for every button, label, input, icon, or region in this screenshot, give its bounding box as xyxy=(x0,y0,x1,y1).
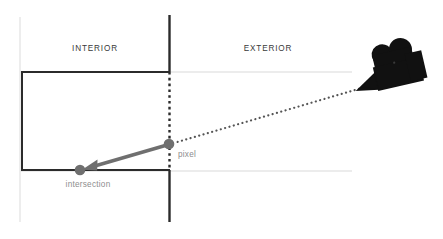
ray-intersection-diagram: INTERIOR EXTERIOR pixel intersection xyxy=(0,0,443,239)
movie-camera-icon xyxy=(346,34,428,96)
interior-boundary xyxy=(22,72,169,170)
zone-label-exterior: EXTERIOR xyxy=(244,44,293,53)
pixel-dot xyxy=(164,139,175,150)
camera-to-pixel-ray xyxy=(174,85,372,143)
diagram-canvas: INTERIOR EXTERIOR pixel intersection xyxy=(0,0,443,239)
intersection-label: intersection xyxy=(66,180,111,189)
intersection-dot xyxy=(75,165,86,176)
pixel-to-intersection-arrow xyxy=(82,145,167,171)
pixel-label: pixel xyxy=(178,150,196,159)
zone-label-interior: INTERIOR xyxy=(72,44,118,53)
